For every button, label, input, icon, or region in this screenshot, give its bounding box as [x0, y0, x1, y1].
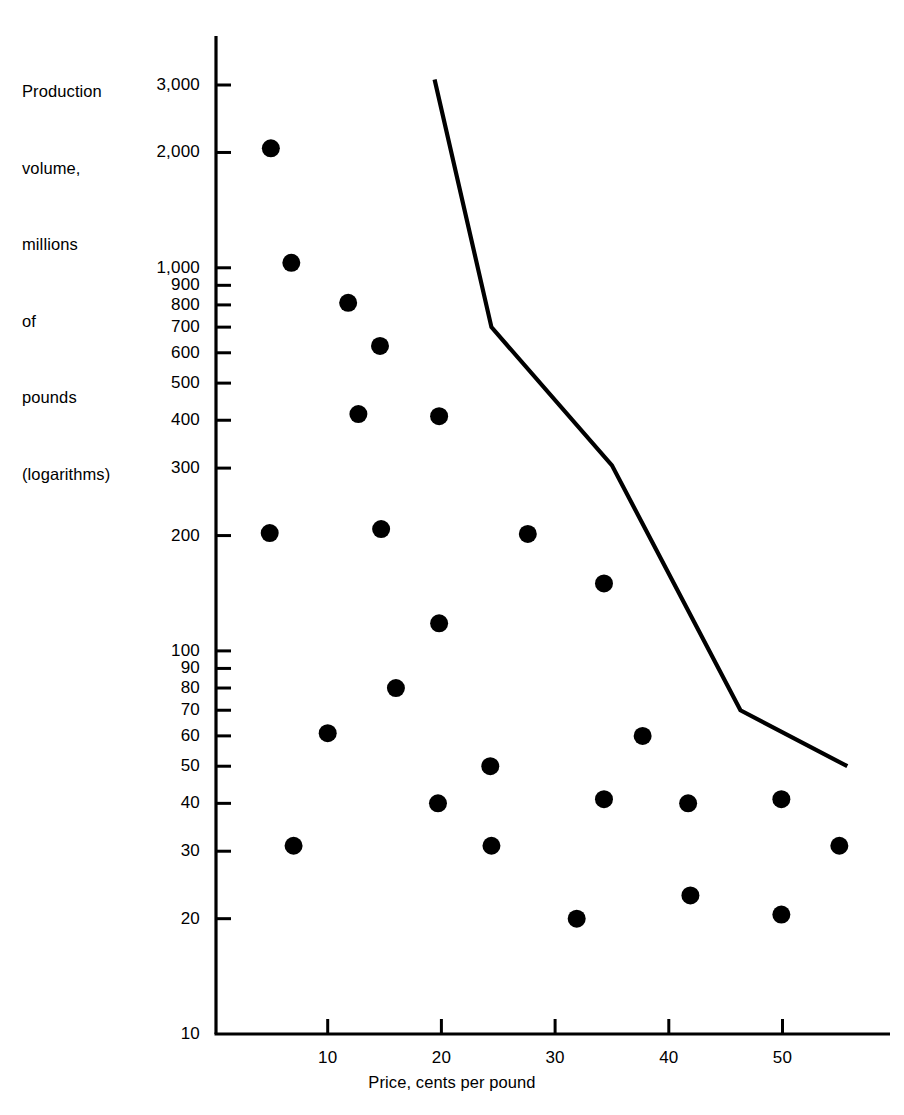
y-axis-tick-label: 400 [100, 410, 200, 430]
y-axis-tick-label: 60 [100, 726, 200, 746]
data-point [371, 337, 389, 355]
chart-figure: Production volume, millions of pounds (l… [0, 0, 904, 1115]
data-point [482, 837, 500, 855]
data-point [595, 790, 613, 808]
data-point [339, 294, 357, 312]
x-axis-tick-label: 50 [733, 1048, 833, 1068]
data-point [772, 906, 790, 924]
plot-area [0, 0, 904, 1115]
y-axis-tick-label: 3,000 [100, 75, 200, 95]
data-point [481, 757, 499, 775]
y-axis-tick-label: 90 [100, 658, 200, 678]
data-point [519, 525, 537, 543]
x-axis-tick-label: 10 [278, 1048, 378, 1068]
data-point [387, 679, 405, 697]
y-axis-tick-label: 200 [100, 526, 200, 546]
x-axis-tick-label: 30 [505, 1048, 605, 1068]
y-axis-tick-label: 700 [100, 317, 200, 337]
data-point [285, 837, 303, 855]
y-axis-tick-label: 800 [100, 295, 200, 315]
x-axis-tick-label: 20 [391, 1048, 491, 1068]
y-axis-tick-label: 500 [100, 373, 200, 393]
data-point [262, 139, 280, 157]
y-axis-tick-label: 70 [100, 700, 200, 720]
data-point [261, 524, 279, 542]
data-point [349, 405, 367, 423]
frontier-line [435, 80, 848, 767]
data-point [319, 724, 337, 742]
data-point [634, 727, 652, 745]
data-point [430, 407, 448, 425]
x-axis-tick-label: 40 [619, 1048, 719, 1068]
data-point [681, 886, 699, 904]
data-point [372, 520, 390, 538]
y-axis-tick-label: 50 [100, 756, 200, 776]
y-axis-tick-label: 300 [100, 458, 200, 478]
data-point [595, 574, 613, 592]
y-axis-tick-label: 600 [100, 343, 200, 363]
y-axis-tick-label: 900 [100, 275, 200, 295]
data-point [772, 790, 790, 808]
y-axis-tick-label: 10 [100, 1024, 200, 1044]
data-point [830, 837, 848, 855]
data-point [429, 794, 447, 812]
data-point [282, 254, 300, 272]
y-axis-tick-label: 20 [100, 909, 200, 929]
data-point [568, 910, 586, 928]
y-axis-tick-label: 2,000 [100, 142, 200, 162]
y-axis-tick-label: 30 [100, 841, 200, 861]
data-point [430, 614, 448, 632]
y-axis-tick-label: 40 [100, 793, 200, 813]
y-axis-tick-label: 80 [100, 678, 200, 698]
data-point [679, 794, 697, 812]
